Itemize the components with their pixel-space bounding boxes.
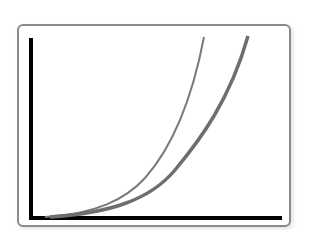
exponential-curves-diagram	[0, 0, 318, 230]
thick-curve	[50, 36, 248, 217]
thin-curve	[45, 37, 204, 217]
